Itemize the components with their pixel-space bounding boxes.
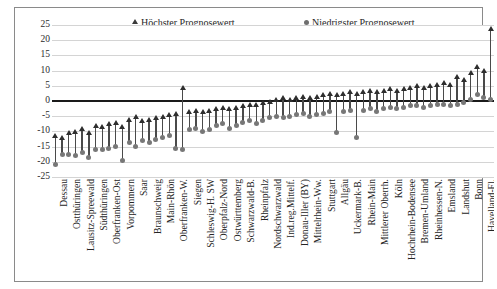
x-axis-tick-label: Allgäu: [340, 179, 350, 205]
x-axis: DessauOstthüringenLausitz-SpreewaldSüdth…: [52, 179, 494, 289]
gridline: [52, 162, 494, 163]
high-value-triangle-icon: [267, 99, 273, 104]
range-bar: [182, 87, 183, 149]
high-value-triangle-icon: [253, 102, 259, 107]
range-bar: [122, 127, 123, 160]
high-value-triangle-icon: [293, 95, 299, 100]
low-value-circle-icon: [80, 150, 85, 155]
low-value-circle-icon: [448, 103, 453, 108]
high-value-triangle-icon: [173, 111, 179, 116]
high-value-triangle-icon: [340, 91, 346, 96]
high-value-triangle-icon: [360, 89, 366, 94]
x-axis-tick-label: Uckermark-B.: [353, 179, 363, 234]
low-value-circle-icon: [287, 114, 292, 119]
range-bar: [95, 125, 96, 149]
high-value-triangle-icon: [481, 68, 487, 73]
low-value-circle-icon: [428, 103, 433, 108]
low-value-circle-icon: [153, 137, 158, 142]
high-value-triangle-icon: [106, 121, 112, 126]
x-axis-tick-label: Ostwürttemberg: [233, 179, 243, 241]
x-axis-tick-label: Main-Rhön: [166, 179, 176, 223]
low-value-circle-icon: [301, 111, 306, 116]
high-value-triangle-icon: [93, 123, 99, 128]
high-value-triangle-icon: [247, 102, 253, 107]
high-value-triangle-icon: [52, 133, 58, 138]
x-axis-tick-label: Schwarzwald-B.: [246, 179, 256, 243]
high-value-triangle-icon: [66, 130, 72, 135]
gridline: [52, 55, 494, 56]
high-value-triangle-icon: [320, 92, 326, 97]
x-axis-tick-label: Hochrhein-Bodensee: [407, 179, 417, 260]
range-bar: [115, 122, 116, 146]
high-value-triangle-icon: [220, 105, 226, 110]
y-axis-tick-label: -20: [37, 157, 50, 167]
y-axis-tick-label: 15: [41, 51, 51, 61]
plot-area: [52, 25, 494, 177]
range-bar: [336, 95, 337, 133]
high-value-triangle-icon: [454, 74, 460, 79]
range-bar: [148, 119, 149, 142]
y-axis-tick-label: -10: [37, 127, 50, 137]
high-value-triangle-icon: [394, 88, 400, 93]
gridline: [52, 131, 494, 132]
triangle-marker-icon: [132, 19, 138, 24]
y-axis-tick-label: -15: [37, 142, 50, 152]
x-axis-tick-label: Mittlerer Oberrh.: [380, 179, 390, 245]
y-axis-tick-label: 25: [41, 20, 51, 30]
x-axis-tick-label: Dessau: [59, 179, 69, 207]
low-value-circle-icon: [368, 106, 373, 111]
high-value-triangle-icon: [354, 91, 360, 96]
high-value-triangle-icon: [461, 77, 467, 82]
gridline: [52, 177, 494, 178]
high-value-triangle-icon: [200, 109, 206, 114]
high-value-triangle-icon: [99, 124, 105, 129]
low-value-circle-icon: [408, 103, 413, 108]
low-value-circle-icon: [66, 152, 71, 157]
low-value-circle-icon: [127, 140, 132, 145]
high-value-triangle-icon: [160, 114, 166, 119]
low-value-circle-icon: [160, 135, 165, 140]
high-value-triangle-icon: [367, 88, 373, 93]
high-value-triangle-icon: [407, 85, 413, 90]
range-bar: [456, 77, 457, 104]
gridline: [52, 147, 494, 148]
y-axis-tick-label: 10: [41, 66, 51, 76]
y-axis-tick-label: -5: [42, 111, 50, 121]
high-value-triangle-icon: [474, 64, 480, 69]
low-value-circle-icon: [274, 114, 279, 119]
range-bar: [175, 113, 176, 148]
high-value-triangle-icon: [153, 115, 159, 120]
high-value-triangle-icon: [72, 129, 78, 134]
chart-frame: 2520151050-5-10-15-20-25 Höchster Progno…: [14, 7, 483, 282]
high-value-triangle-icon: [427, 83, 433, 88]
gridline: [52, 40, 494, 41]
high-value-triangle-icon: [119, 124, 125, 129]
x-axis-tick-label: Stuttgart: [327, 179, 337, 212]
high-value-triangle-icon: [213, 106, 219, 111]
range-bar: [477, 66, 478, 95]
y-axis-tick-label: 20: [41, 35, 51, 45]
low-value-circle-icon: [120, 158, 125, 163]
high-value-triangle-icon: [166, 112, 172, 117]
y-axis-tick-label: 0: [45, 96, 50, 106]
high-value-triangle-icon: [226, 106, 232, 111]
low-value-circle-icon: [341, 109, 346, 114]
range-bar: [135, 116, 136, 146]
x-axis-tick-label: Oberpfalz-Nord: [219, 179, 229, 240]
high-value-triangle-icon: [327, 91, 333, 96]
range-bar: [155, 118, 156, 139]
low-value-circle-icon: [60, 152, 65, 157]
x-axis-tick-label: Rheinpfalz: [260, 179, 270, 221]
range-bar: [75, 131, 76, 155]
y-axis: 2520151050-5-10-15-20-25: [29, 25, 52, 177]
high-value-triangle-icon: [334, 92, 340, 97]
high-value-triangle-icon: [307, 95, 313, 100]
low-value-circle-icon: [227, 126, 232, 131]
range-bar: [443, 83, 444, 104]
x-axis-tick-label: Saar: [139, 179, 149, 196]
gridline: [52, 25, 494, 26]
high-value-triangle-icon: [434, 82, 440, 87]
low-value-circle-icon: [100, 147, 105, 152]
x-axis-tick-label: Rhein-Main: [367, 179, 377, 225]
low-value-circle-icon: [388, 105, 393, 110]
